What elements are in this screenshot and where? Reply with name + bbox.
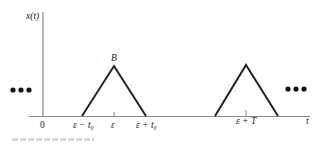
tick-label-eps-minus-t0: ε − t₀: [73, 120, 94, 130]
peak-label: B: [111, 53, 117, 63]
ellipsis-left: [10, 87, 31, 92]
cropped-caption-fragment: [12, 138, 94, 141]
x-axis-label: t: [306, 116, 309, 126]
tick-label-origin: 0: [40, 120, 45, 130]
tick-label-eps-plus-T: ε + T: [236, 116, 257, 126]
triangle-pulse-2: [215, 65, 278, 116]
ellipsis-right: [285, 86, 306, 91]
periodic-triangle-pulse-diagram: x(t) B 0 ε − t₀ ε ε + t₀ ε + T t: [0, 0, 322, 145]
y-axis-label: x(t): [25, 11, 39, 22]
triangle-pulse-1: [82, 66, 146, 116]
tick-label-eps-plus-t0: ε + t₀: [136, 120, 157, 130]
tick-label-eps: ε: [111, 120, 115, 130]
